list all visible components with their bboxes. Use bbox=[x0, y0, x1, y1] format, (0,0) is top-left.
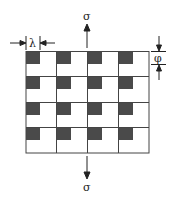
phi-label: φ bbox=[154, 52, 162, 65]
diagram-canvas: σ σ λ φ bbox=[0, 0, 173, 199]
arrow-down-icon bbox=[84, 156, 90, 179]
lambda-label: λ bbox=[29, 37, 36, 50]
dark-squares bbox=[26, 52, 133, 140]
stress-label-top: σ bbox=[83, 10, 91, 23]
stress-label-bottom: σ bbox=[83, 181, 91, 194]
arrow-up-icon bbox=[84, 24, 90, 48]
